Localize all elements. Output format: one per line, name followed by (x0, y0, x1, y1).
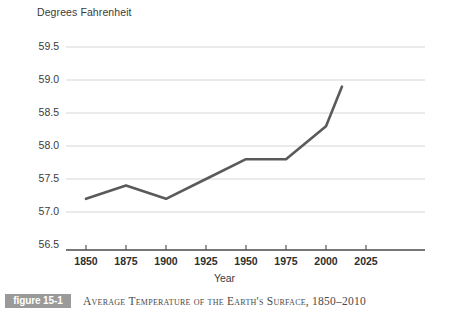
y-axis-tick-label: 58.5 (17, 106, 59, 118)
figure-caption-row: figure 15-1 Average Temperature of the E… (0, 292, 449, 310)
line-chart-svg (0, 0, 449, 290)
figure-caption-text: Average Temperature of the Earth's Surfa… (83, 295, 366, 307)
y-axis-tick-label: 57.5 (17, 172, 59, 184)
figure-container: Degrees Fahrenheit 56.557.057.558.058.55… (0, 0, 449, 312)
figure-number-badge: figure 15-1 (5, 294, 71, 308)
y-axis-tick-label: 58.0 (17, 139, 59, 151)
x-axis-tick-marks (86, 245, 366, 250)
temperature-data-line (86, 87, 342, 199)
y-axis-tick-label: 57.0 (17, 205, 59, 217)
y-axis-tick-label: 59.5 (17, 40, 59, 52)
y-axis-tick-label: 59.0 (17, 73, 59, 85)
x-axis-tick-label: 2025 (343, 255, 389, 267)
y-axis-tick-label: 56.5 (17, 238, 59, 250)
chart-plot-area: 56.557.057.558.058.559.059.5 18501875190… (0, 0, 449, 290)
x-axis-title: Year (0, 272, 449, 284)
